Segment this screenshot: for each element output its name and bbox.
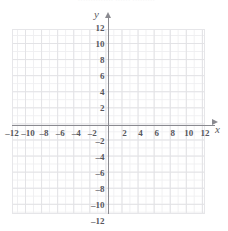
y-axis-line	[108, 17, 109, 214]
header-text-fragment: ·············· ······ ·········	[34, 0, 199, 5]
y-tick-label: –4	[82, 153, 104, 162]
y-tick-label: –8	[82, 185, 104, 194]
y-tick-label: 10	[82, 40, 104, 49]
y-tick-label: 6	[82, 72, 104, 81]
x-axis-label: x	[215, 123, 220, 135]
y-tick-label: –10	[82, 201, 104, 210]
y-tick-label: –12	[82, 217, 104, 226]
y-axis-arrow-icon	[105, 12, 111, 18]
coordinate-plane-worksheet: ·············· ······ ········· y x –12–…	[0, 0, 228, 231]
y-tick-label: 4	[82, 88, 104, 97]
y-axis-label: y	[94, 8, 99, 20]
y-tick-label: –2	[82, 137, 104, 146]
y-tick-label: 8	[82, 56, 104, 65]
y-tick-label: –6	[82, 169, 104, 178]
y-tick-label: 2	[82, 104, 104, 113]
coordinate-grid: y x –12–10–8–6–4–224681012 12108642–2–4–…	[12, 29, 205, 214]
x-axis-line	[12, 125, 215, 126]
x-tick-label: 12	[195, 129, 215, 138]
y-tick-label: 12	[82, 24, 104, 33]
